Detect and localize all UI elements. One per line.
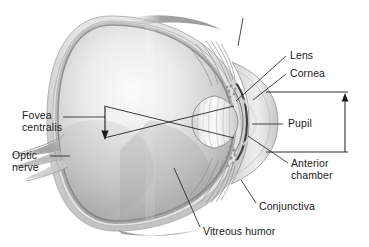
- dimension-arrow-head: [342, 93, 349, 102]
- leader-superior-tick: [238, 18, 243, 46]
- label-conjunctiva: Conjunctiva: [259, 201, 315, 213]
- label-anterior-chamber-line1: Anterior: [291, 158, 329, 170]
- label-optic-nerve-line2: nerve: [12, 162, 39, 174]
- eye-anatomy-figure: Lens Cornea Pupil Anterior chamber Conju…: [0, 0, 369, 247]
- label-optic-nerve-line1: Optic: [12, 150, 37, 162]
- label-vitreous-humor: Vitreous humor: [203, 226, 275, 238]
- label-lens: Lens: [290, 50, 313, 62]
- label-fovea-line1: Fovea: [22, 110, 52, 122]
- label-cornea: Cornea: [290, 68, 325, 80]
- leader-conjunctiva: [241, 180, 256, 203]
- label-pupil: Pupil: [288, 118, 312, 130]
- label-fovea-line2: centralis: [22, 122, 62, 134]
- label-anterior-chamber-line2: chamber: [291, 170, 333, 182]
